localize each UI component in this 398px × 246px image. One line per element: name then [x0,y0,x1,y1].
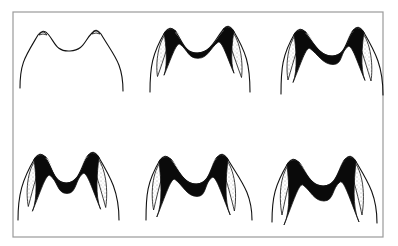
tooth-stage-2 [150,26,250,92]
dentine-band [284,157,359,225]
tooth-stage-5 [146,154,252,220]
tooth-stage-1 [20,30,123,91]
tooth-wear-diagram [0,0,398,246]
tooth-stage-4 [18,152,119,220]
figure-frame [13,12,383,237]
tooth-stage-6 [272,156,377,225]
tooth-wear-figure [0,0,398,246]
crown-outline [20,30,123,91]
dentine-band [157,155,230,217]
dentine-band [32,153,100,211]
dentine-band [293,28,365,83]
tooth-panels [18,26,383,225]
tooth-stage-3 [281,27,383,95]
